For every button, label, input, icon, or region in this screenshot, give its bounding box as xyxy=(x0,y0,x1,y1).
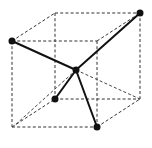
atom-front-bottom-right xyxy=(94,124,101,131)
bond-front-top-left xyxy=(12,41,76,70)
cube-edge-depth-top-left xyxy=(12,13,55,41)
atom-back-bottom-left xyxy=(52,96,59,103)
guide-center-to-front-bottom-left xyxy=(14,70,76,126)
atom-back-top-right xyxy=(137,10,144,17)
cube-edge-depth-top-right xyxy=(97,13,140,41)
atom-center xyxy=(73,67,80,74)
guide-lines xyxy=(14,70,140,126)
cube-edge-depth-bottom-right xyxy=(97,99,140,127)
bond-back-bottom-left xyxy=(55,70,76,99)
cube-edge-depth-bottom-left xyxy=(12,99,55,127)
atom-front-top-left xyxy=(9,38,16,45)
tetrahedral-cube-diagram xyxy=(0,0,152,148)
